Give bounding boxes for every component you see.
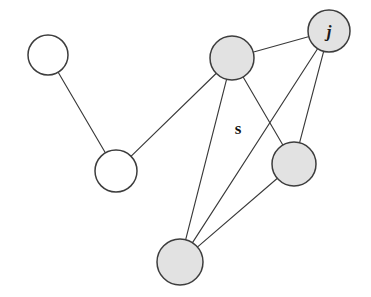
node-layer: j	[28, 10, 350, 285]
graph-node-j[interactable]: j	[308, 10, 350, 52]
node-circle-n2[interactable]	[95, 150, 137, 192]
graph-node-s[interactable]	[210, 36, 254, 80]
edge-layer	[58, 37, 324, 248]
graph-edge-n5-n6	[197, 178, 278, 247]
graph-figure: j s	[0, 0, 371, 297]
graph-edge-n1-n2	[58, 72, 106, 153]
graph-edge-s-n6	[186, 79, 227, 240]
node-circle-n6[interactable]	[157, 239, 203, 285]
graph-node-n2[interactable]	[95, 150, 137, 192]
graph-edge-n2-s	[131, 73, 217, 157]
graph-edge-s-j	[253, 37, 310, 53]
annotation-layer: s	[235, 119, 242, 138]
node-circle-n1[interactable]	[28, 35, 68, 75]
annotation-label-s: s	[235, 119, 242, 138]
graph-canvas: j s	[0, 0, 371, 297]
node-circle-n5[interactable]	[272, 142, 316, 186]
graph-node-n6[interactable]	[157, 239, 203, 285]
graph-edge-j-n5	[299, 51, 323, 143]
node-circle-s[interactable]	[210, 36, 254, 80]
graph-node-n5[interactable]	[272, 142, 316, 186]
graph-node-n1[interactable]	[28, 35, 68, 75]
